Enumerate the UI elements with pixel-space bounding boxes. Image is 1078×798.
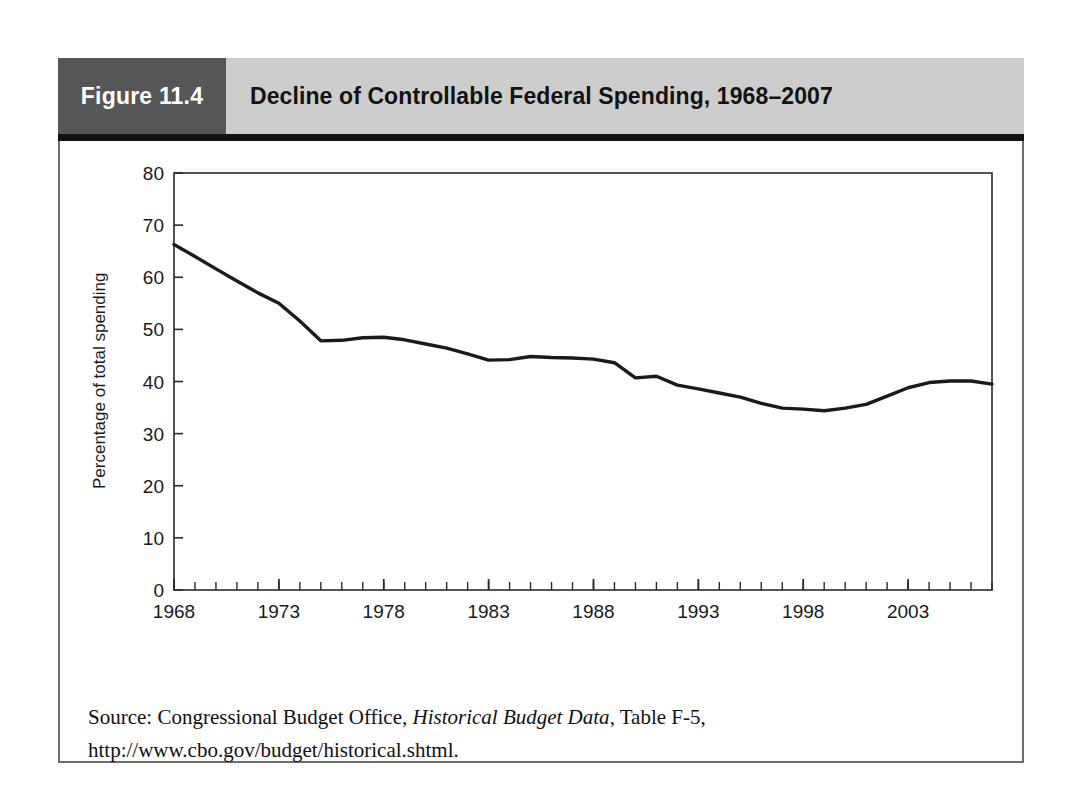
x-tick-label: 1998 — [782, 601, 824, 622]
y-tick-label: 80 — [143, 163, 164, 184]
y-tick-label: 10 — [143, 528, 164, 549]
y-tick-label: 50 — [143, 319, 164, 340]
line-chart: 0102030405060708019681973197819831988199… — [60, 141, 1022, 701]
figure-header: Figure 11.4 Decline of Controllable Fede… — [58, 58, 1024, 134]
y-tick-label: 0 — [153, 580, 164, 601]
plot-frame — [174, 173, 992, 590]
figure-number-block: Figure 11.4 — [58, 58, 226, 134]
x-tick-label: 1983 — [467, 601, 509, 622]
figure-title-label: Decline of Controllable Federal Spending… — [250, 83, 833, 110]
x-tick-label: 1993 — [677, 601, 719, 622]
header-rule — [58, 134, 1024, 141]
figure-title-block: Decline of Controllable Federal Spending… — [226, 58, 1024, 134]
x-tick-label: 1968 — [153, 601, 195, 622]
y-axis-title: Percentage of total spending — [90, 289, 110, 489]
figure-container: Figure 11.4 Decline of Controllable Fede… — [58, 58, 1024, 764]
x-tick-label: 2003 — [887, 601, 929, 622]
y-tick-label: 40 — [143, 372, 164, 393]
source-italic-title: Historical Budget Data — [412, 705, 609, 729]
y-tick-label: 30 — [143, 424, 164, 445]
source-note: Source: Congressional Budget Office, His… — [88, 701, 988, 766]
source-prefix: Source: Congressional Budget Office, — [88, 705, 412, 729]
figure-number-label: Figure 11.4 — [81, 83, 203, 110]
x-tick-label: 1973 — [258, 601, 300, 622]
chart-area: Percentage of total spending 01020304050… — [60, 141, 1022, 701]
data-series-line — [174, 244, 992, 410]
x-tick-label: 1988 — [572, 601, 614, 622]
y-tick-label: 20 — [143, 476, 164, 497]
x-tick-label: 1978 — [363, 601, 405, 622]
figure-body: Percentage of total spending 01020304050… — [58, 141, 1024, 763]
y-tick-label: 60 — [143, 267, 164, 288]
y-tick-label: 70 — [143, 215, 164, 236]
